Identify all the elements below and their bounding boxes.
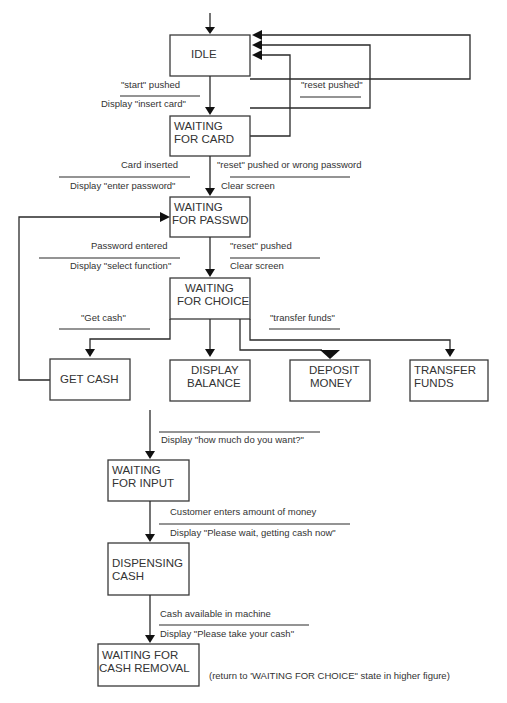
state-get-cash: GET CASH: [50, 359, 130, 400]
svg-text:MONEY: MONEY: [310, 377, 353, 389]
svg-text:"reset" pushed: "reset" pushed: [230, 240, 292, 251]
svg-text:"transfer funds": "transfer funds": [270, 312, 335, 323]
svg-text:GET CASH: GET CASH: [60, 373, 119, 385]
svg-text:WAITING: WAITING: [112, 464, 161, 476]
state-display-balance: DISPLAY BALANCE: [170, 360, 250, 401]
transition-how-much: Display "how much do you want?": [145, 410, 320, 459]
svg-text:"start" pushed: "start" pushed: [121, 79, 180, 90]
svg-text:DISPLAY: DISPLAY: [191, 364, 239, 376]
svg-text:CASH: CASH: [112, 570, 144, 582]
svg-text:FOR CARD: FOR CARD: [174, 133, 234, 145]
state-transfer-funds: TRANSFER FUNDS: [410, 360, 488, 401]
transition-password-entered: Password entered Display "select functio…: [39, 237, 320, 277]
state-idle: IDLE: [170, 35, 250, 76]
svg-text:Clear screen: Clear screen: [230, 260, 284, 271]
transition-start: "start" pushed Display "insert card": [101, 76, 215, 115]
svg-text:Display "select function": Display "select function": [70, 260, 171, 271]
svg-text:"reset" pushed or wrong passwo: "reset" pushed or wrong password: [217, 159, 362, 170]
svg-text:"Get cash": "Get cash": [81, 312, 126, 323]
transition-reset-idle: "reset pushed": [300, 79, 363, 97]
state-waiting-for-card: WAITING FOR CARD: [170, 116, 250, 156]
state-waiting-for-cash-removal: WAITING FOR CASH REMOVAL: [98, 644, 199, 686]
state-waiting-for-input: WAITING FOR INPUT: [108, 460, 189, 501]
state-waiting-for-passwd: WAITING FOR PASSWD: [170, 197, 250, 237]
state-deposit-money: DEPOSIT MONEY: [290, 360, 370, 401]
state-waiting-for-choice: WAITING FOR CHOICE: [170, 278, 250, 319]
svg-text:CASH REMOVAL: CASH REMOVAL: [99, 662, 190, 674]
svg-text:TRANSFER: TRANSFER: [414, 364, 476, 376]
svg-text:FUNDS: FUNDS: [414, 377, 454, 389]
svg-text:Customer enters amount of mone: Customer enters amount of money: [170, 506, 317, 517]
svg-text:"reset pushed": "reset pushed": [301, 79, 363, 90]
svg-text:Display "enter password": Display "enter password": [70, 180, 175, 191]
svg-text:BALANCE: BALANCE: [187, 377, 241, 389]
svg-text:Password entered: Password entered: [91, 240, 168, 251]
return-note: (return to 'WAITING FOR CHOICE" state in…: [209, 670, 450, 681]
svg-text:WAITING FOR: WAITING FOR: [102, 649, 178, 661]
state-dispensing-cash: DISPENSING CASH: [108, 543, 189, 595]
svg-text:Cash available in machine: Cash available in machine: [160, 608, 271, 619]
get-cash-loop: [19, 212, 170, 380]
svg-text:WAITING: WAITING: [174, 120, 223, 132]
entry-arrow: [205, 13, 215, 34]
svg-text:FOR INPUT: FOR INPUT: [112, 477, 174, 489]
svg-text:Display "insert card": Display "insert card": [101, 98, 186, 109]
transition-enters-amount: Customer enters amount of money Display …: [145, 501, 350, 542]
svg-text:WAITING: WAITING: [185, 282, 234, 294]
svg-text:Display "how much do you want?: Display "how much do you want?": [161, 434, 304, 445]
svg-text:Display "Please wait, getting: Display "Please wait, getting cash now": [170, 527, 336, 538]
transition-cash-available: Cash available in machine Display "Pleas…: [145, 595, 309, 643]
svg-text:FOR PASSWD: FOR PASSWD: [172, 214, 248, 226]
svg-text:FOR CHOICE: FOR CHOICE: [177, 295, 250, 307]
svg-text:Clear screen: Clear screen: [221, 180, 275, 191]
svg-text:DEPOSIT: DEPOSIT: [309, 364, 359, 376]
atm-state-diagram: IDLE "start" pushed Display "insert card…: [0, 0, 507, 703]
svg-text:Card inserted: Card inserted: [121, 159, 178, 170]
svg-text:IDLE: IDLE: [191, 48, 217, 60]
svg-text:WAITING: WAITING: [174, 201, 223, 213]
svg-text:DISPENSING: DISPENSING: [112, 557, 183, 569]
transition-card-inserted: Card inserted Display "enter password" "…: [59, 156, 362, 196]
svg-text:Display "Please take your cash: Display "Please take your cash": [160, 628, 294, 639]
choice-branches: "Get cash" "transfer funds": [59, 312, 455, 359]
